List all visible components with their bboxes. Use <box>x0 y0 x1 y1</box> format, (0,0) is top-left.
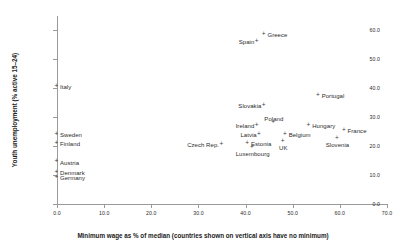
x-tick-mark <box>340 204 341 208</box>
plus-marker-icon <box>284 134 287 137</box>
y-tick-label: 50.0 <box>370 56 381 62</box>
plus-marker-icon <box>263 106 266 109</box>
plot-area: 0.010.020.030.040.050.060.0 0.010.020.03… <box>57 16 387 204</box>
plus-marker-icon <box>256 126 259 129</box>
data-point-label: France <box>348 128 367 134</box>
y-tick-label: 20.0 <box>370 143 381 149</box>
x-tick-mark <box>293 204 294 208</box>
plus-marker-icon <box>272 123 275 126</box>
plus-marker-icon <box>55 162 58 165</box>
plus-marker-icon <box>308 126 311 129</box>
plus-marker-icon <box>343 130 346 133</box>
y-tick-label: 0.0 <box>372 201 380 207</box>
data-point-label: Greece <box>267 32 287 38</box>
x-tick-mark <box>151 204 152 208</box>
x-axis-line <box>57 204 387 205</box>
x-tick-mark <box>104 204 105 208</box>
plus-marker-icon <box>55 87 58 90</box>
data-point-label: Sweden <box>60 132 82 138</box>
x-tick-label: 50.0 <box>273 210 313 216</box>
plus-marker-icon <box>317 95 320 98</box>
data-point-label: Slovenia <box>326 142 349 148</box>
data-point-label: Austria <box>60 160 79 166</box>
y-tick-label: 10.0 <box>370 172 381 178</box>
x-tick-label: 10.0 <box>84 210 124 216</box>
plus-marker-icon <box>258 134 261 137</box>
data-point-label: Germany <box>60 175 85 181</box>
x-tick-label: 20.0 <box>131 210 171 216</box>
x-tick-mark <box>246 204 247 208</box>
y-tick-mark <box>53 30 57 31</box>
x-tick-mark <box>387 204 388 208</box>
data-point-label: Ireland <box>236 123 255 129</box>
data-point-label: Luxembourg <box>236 151 270 157</box>
y-tick-mark <box>53 117 57 118</box>
plus-marker-icon <box>256 42 259 45</box>
data-point-label: Spain <box>239 39 255 45</box>
data-point-label: Italy <box>60 84 71 90</box>
plus-marker-icon <box>55 134 58 137</box>
plus-marker-icon <box>246 143 249 146</box>
x-tick-label: 60.0 <box>320 210 360 216</box>
x-tick-label: 0.0 <box>37 210 77 216</box>
plus-marker-icon <box>263 35 266 38</box>
data-point-label: Poland <box>264 116 283 122</box>
data-point-label: Belgium <box>289 132 311 138</box>
plus-marker-icon <box>55 143 58 146</box>
data-point-label: Finland <box>60 141 80 147</box>
data-point-label: Hungary <box>312 123 335 129</box>
data-point-label: UK <box>279 145 287 151</box>
data-point-label: Slovakia <box>238 103 261 109</box>
x-axis-title: Minimum wage as % of median (countries s… <box>0 232 406 239</box>
data-point-label: Portugal <box>322 93 345 99</box>
y-tick-mark <box>53 59 57 60</box>
x-tick-label: 30.0 <box>178 210 218 216</box>
scatter-chart-figure: Youth unemployment (% active 15–24) Mini… <box>0 0 406 252</box>
y-axis-title: Youth unemployment (% active 15–24) <box>8 16 21 204</box>
y-tick-label: 40.0 <box>370 85 381 91</box>
plus-marker-icon <box>220 145 223 148</box>
plus-marker-icon <box>55 178 58 181</box>
data-point-label: Latvia <box>240 132 256 138</box>
x-tick-mark <box>198 204 199 208</box>
x-tick-label: 40.0 <box>226 210 266 216</box>
y-tick-label: 60.0 <box>370 27 381 33</box>
x-tick-mark <box>57 204 58 208</box>
y-tick-label: 30.0 <box>370 114 381 120</box>
data-point-label: Czech Rep. <box>187 142 219 148</box>
x-tick-label: 70.0 <box>367 210 406 216</box>
